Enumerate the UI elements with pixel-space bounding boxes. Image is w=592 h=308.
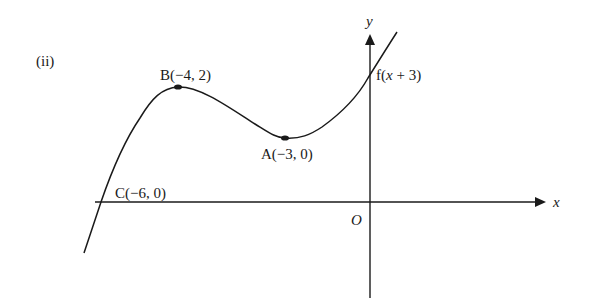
- point-a-dot: [281, 135, 289, 140]
- part-label: (ii): [36, 54, 54, 69]
- point-b-label: B(−4, 2): [160, 68, 211, 83]
- x-axis-label: x: [553, 195, 560, 210]
- x-axis-arrow-icon: [535, 197, 546, 207]
- curve-label: f(x + 3): [376, 68, 421, 83]
- point-c-label: C(−6, 0): [115, 186, 166, 201]
- origin-label: O: [351, 213, 362, 228]
- point-b-dot: [174, 84, 182, 89]
- point-a-label: A(−3, 0): [261, 147, 313, 162]
- curve-label-x: x: [386, 67, 393, 83]
- y-axis-arrow-icon: [365, 34, 375, 45]
- y-axis-label: y: [366, 14, 373, 29]
